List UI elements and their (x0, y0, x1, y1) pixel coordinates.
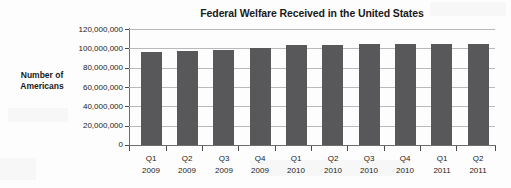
bar (431, 44, 452, 146)
bar (250, 48, 271, 145)
y-tick-label: 100,000,000 (65, 44, 123, 53)
x-tick-mark (275, 146, 276, 151)
chart-container: Federal Welfare Received in the United S… (0, 0, 511, 188)
x-label-quarter: Q1 (275, 153, 317, 165)
x-tick-mark (129, 146, 130, 151)
x-axis-label: Q1 2010 (275, 153, 317, 176)
paper-blotch (8, 108, 68, 122)
bar (359, 44, 380, 145)
x-label-year: 2011 (457, 165, 499, 177)
y-tick-label: 40,000,000 (65, 102, 123, 111)
y-axis-tick-labels: 120,000,000 100,000,000 80,000,000 60,00… (65, 0, 123, 188)
x-label-year: 2010 (384, 165, 426, 177)
bar (322, 45, 343, 145)
bar (468, 44, 489, 146)
plot-area (129, 29, 495, 145)
x-tick-mark (456, 146, 457, 151)
x-label-quarter: Q2 (457, 153, 499, 165)
x-axis-line (129, 145, 496, 146)
bar (141, 52, 162, 145)
bar (286, 45, 307, 145)
y-tick-label: 80,000,000 (65, 63, 123, 72)
x-label-quarter: Q4 (384, 153, 426, 165)
paper-blotch (0, 158, 36, 180)
x-label-year: 2010 (275, 165, 317, 177)
x-label-quarter: Q2 (166, 153, 208, 165)
bar (213, 50, 234, 145)
x-tick-mark (238, 146, 239, 151)
x-tick-mark (166, 146, 167, 151)
y-tick-label: 20,000,000 (65, 121, 123, 130)
x-axis-label: Q4 2010 (384, 153, 426, 176)
x-tick-mark (495, 146, 496, 151)
gridline (129, 29, 495, 30)
x-tick-mark (420, 146, 421, 151)
x-tick-mark (311, 146, 312, 151)
x-tick-mark (347, 146, 348, 151)
bar (177, 51, 198, 145)
y-tick-label: 120,000,000 (65, 25, 123, 34)
x-axis-label: Q2 2011 (457, 153, 499, 176)
y-tick-label: 60,000,000 (65, 83, 123, 92)
x-label-year: 2009 (166, 165, 208, 177)
bar (395, 44, 416, 145)
chart-title: Federal Welfare Received in the United S… (128, 7, 496, 19)
x-tick-mark (202, 146, 203, 151)
y-tick-label: 0 (65, 140, 123, 149)
x-axis-label: Q2 2009 (166, 153, 208, 176)
x-tick-mark (384, 146, 385, 151)
